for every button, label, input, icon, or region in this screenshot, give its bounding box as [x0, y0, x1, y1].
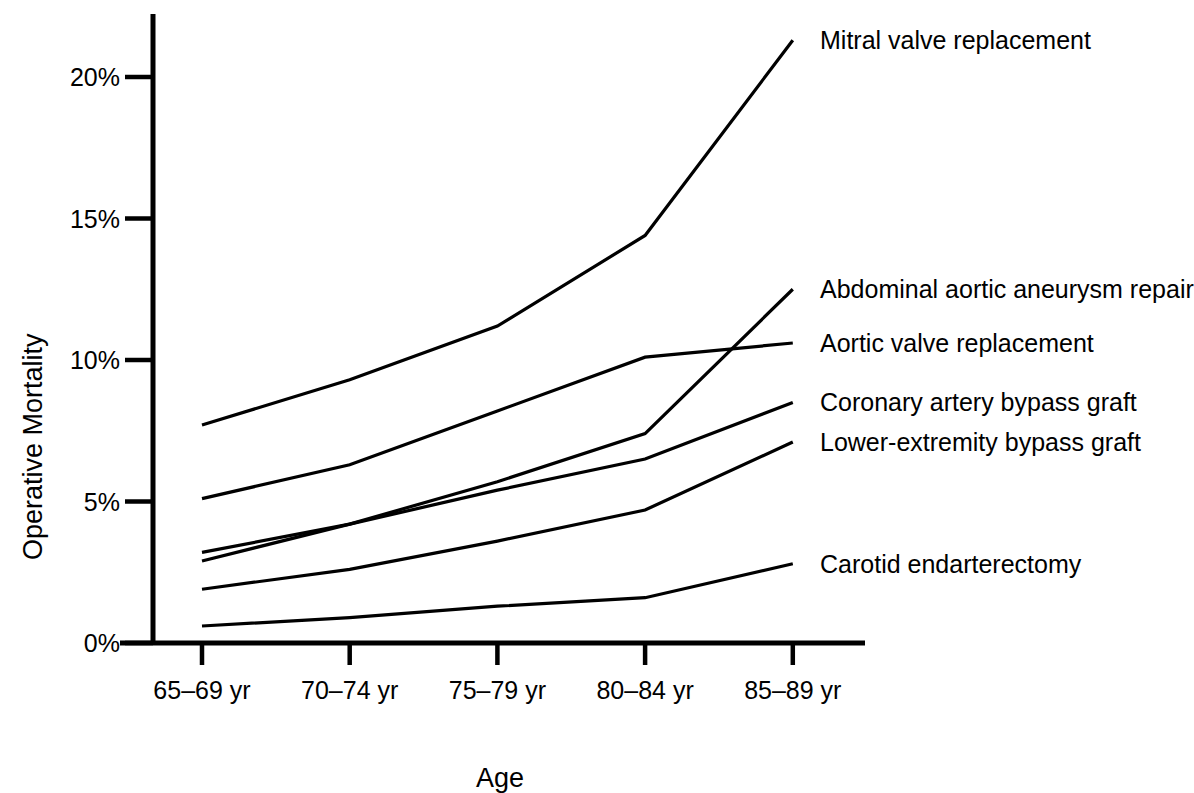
series-label-2: Aortic valve replacement — [820, 331, 1094, 356]
series-label-3: Coronary artery bypass graft — [820, 390, 1137, 415]
x-axis-title: Age — [476, 763, 524, 793]
series-line-2 — [202, 289, 793, 552]
x-tick-label-4: 85–89 yr — [744, 678, 841, 703]
series-label-1: Abdominal aortic aneurysm repair — [820, 277, 1194, 302]
series-line-0 — [202, 40, 793, 425]
series-label-4: Lower-extremity bypass graft — [820, 430, 1141, 455]
x-tick-label-1: 70–74 yr — [301, 678, 398, 703]
series-line-4 — [202, 442, 793, 589]
x-tick-label-3: 80–84 yr — [596, 678, 693, 703]
series-line-5 — [202, 564, 793, 626]
series-label-0: Mitral valve replacement — [820, 28, 1091, 53]
y-tick-label-4: 20% — [30, 65, 120, 90]
series-label-5: Carotid endarterectomy — [820, 551, 1081, 576]
x-tick-label-2: 75–79 yr — [449, 678, 546, 703]
y-axis-title: Operative Mortality — [18, 333, 49, 560]
y-tick-label-0: 0% — [30, 631, 120, 656]
y-tick-label-3: 15% — [30, 206, 120, 231]
series-line-1 — [202, 343, 793, 499]
x-tick-label-0: 65–69 yr — [153, 678, 250, 703]
